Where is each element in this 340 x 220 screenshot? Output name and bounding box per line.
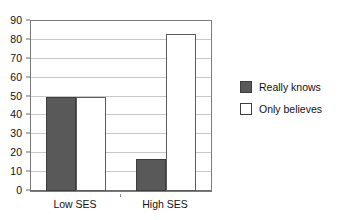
bar bbox=[46, 97, 76, 191]
y-tick-label: 30 bbox=[10, 128, 22, 139]
bar bbox=[136, 159, 166, 191]
bar-chart: 0102030405060708090 Low SESHigh SES Real… bbox=[0, 0, 340, 220]
y-axis: 0102030405060708090 bbox=[0, 20, 26, 192]
y-tick-label: 0 bbox=[16, 185, 22, 196]
legend-swatch-icon bbox=[240, 103, 252, 115]
chart-legend: Really knowsOnly believes bbox=[240, 76, 322, 120]
y-tick-label: 80 bbox=[10, 33, 22, 44]
bar bbox=[76, 97, 106, 191]
y-tick-label: 50 bbox=[10, 90, 22, 101]
x-tick-label: High SES bbox=[142, 198, 188, 210]
y-tick-label: 20 bbox=[10, 147, 22, 158]
bar bbox=[166, 34, 196, 191]
y-tick-label: 90 bbox=[10, 15, 22, 26]
legend-swatch-icon bbox=[240, 81, 252, 93]
y-tick-label: 60 bbox=[10, 71, 22, 82]
x-tick-label: Low SES bbox=[53, 198, 96, 210]
plot-area bbox=[30, 20, 212, 192]
legend-label: Only believes bbox=[259, 103, 322, 115]
y-tick-label: 40 bbox=[10, 109, 22, 120]
y-tick-label: 10 bbox=[10, 166, 22, 177]
x-axis: Low SESHigh SES bbox=[30, 194, 212, 214]
legend-label: Really knows bbox=[259, 81, 321, 93]
legend-item: Only believes bbox=[240, 98, 322, 120]
y-tick-label: 70 bbox=[10, 52, 22, 63]
legend-item: Really knows bbox=[240, 76, 322, 98]
x-group-separator bbox=[120, 194, 121, 197]
